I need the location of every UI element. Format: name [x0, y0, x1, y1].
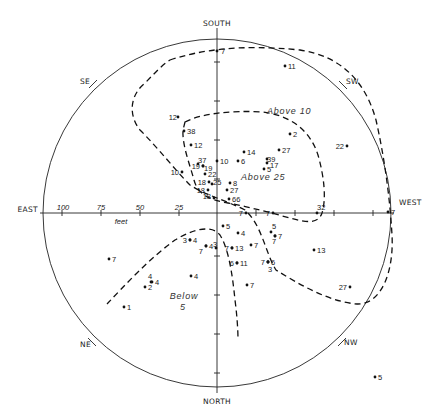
- data-point-marker: [263, 168, 266, 171]
- data-point-label: 3: [183, 236, 187, 245]
- data-point-label: 7: [254, 241, 258, 250]
- data-point-marker: [250, 244, 253, 247]
- data-point-label: 11: [288, 62, 296, 71]
- data-point-marker: [237, 232, 240, 235]
- data-point-label: 7: [239, 209, 243, 218]
- data-point-marker: [183, 130, 186, 133]
- contour-label-below-value: 5: [180, 302, 186, 312]
- scale-tick-75: 75: [97, 203, 106, 212]
- data-point-marker: [123, 306, 126, 309]
- data-point-label: 27: [339, 283, 347, 292]
- data-point-marker: [272, 212, 275, 215]
- data-point-marker: [205, 245, 208, 248]
- data-point-label: 5: [378, 373, 382, 382]
- data-point-marker: [144, 286, 147, 289]
- data-point-label: 2: [293, 130, 297, 139]
- data-point-marker: [213, 197, 216, 200]
- data-point-label: 10: [171, 168, 179, 177]
- data-point-label: 7: [250, 281, 254, 290]
- axis-ticks: [62, 62, 373, 373]
- direction-nw: NW: [344, 338, 358, 347]
- data-point-marker: [278, 149, 281, 152]
- data-point-label: 4: [193, 236, 197, 245]
- scale-tick-25: 25: [174, 203, 184, 212]
- data-point-marker: [222, 225, 225, 228]
- data-point-label: 13: [235, 244, 243, 253]
- data-point-label: 4: [194, 272, 198, 281]
- direction-east: EAST: [18, 205, 39, 214]
- data-point-marker: [246, 284, 249, 287]
- data-point-marker: [346, 145, 349, 148]
- data-point-marker: [266, 162, 269, 165]
- data-point-label: 7: [266, 209, 270, 218]
- polar-chart: SOUTH NORTH EAST WEST SE SW NE NW 100 75…: [0, 0, 437, 419]
- data-points: 7111238122221427371063917191910225182581…: [108, 47, 396, 382]
- data-point-marker: [190, 275, 193, 278]
- data-point-label: 1: [127, 303, 131, 312]
- data-point-label: 7: [221, 47, 225, 56]
- data-point-label: 19: [192, 162, 200, 171]
- data-point-label: 5: [226, 222, 230, 231]
- data-point-marker: [207, 189, 210, 192]
- data-point-marker: [349, 286, 352, 289]
- data-point-label: 38: [187, 127, 195, 136]
- data-point-label: 14: [247, 148, 255, 157]
- data-point-label: 2: [148, 283, 152, 292]
- data-point-marker: [226, 189, 229, 192]
- data-point-marker: [245, 212, 248, 215]
- data-point-marker: [190, 144, 193, 147]
- data-point-label: 5: [267, 165, 271, 174]
- data-point-label: 6: [230, 259, 234, 268]
- data-point-marker: [181, 171, 184, 174]
- data-point-marker: [267, 261, 270, 264]
- data-point-label: 7: [391, 208, 395, 217]
- data-point-label: 66: [232, 195, 240, 204]
- data-point-label: 7: [199, 247, 203, 256]
- data-point-marker: [108, 258, 111, 261]
- data-point-marker: [374, 376, 377, 379]
- data-point-label: 5: [272, 222, 276, 231]
- data-point-marker: [216, 50, 219, 53]
- data-point-label: 27: [282, 146, 290, 155]
- data-point-marker: [228, 198, 231, 201]
- data-point-marker: [237, 160, 240, 163]
- data-point-label: 32: [317, 203, 325, 212]
- data-point-marker: [231, 247, 234, 250]
- scale-tick-50: 50: [136, 203, 145, 212]
- data-point-label: 12: [194, 141, 202, 150]
- contour-below-5: [107, 229, 238, 340]
- data-point-label: 7: [278, 232, 282, 241]
- data-point-label: 12: [169, 113, 177, 122]
- scale-tick-100: 100: [57, 203, 70, 212]
- data-point-marker: [229, 182, 232, 185]
- data-point-label: 13: [317, 246, 325, 255]
- data-point-label: 11: [240, 259, 248, 268]
- data-point-label: 10: [220, 157, 228, 166]
- direction-ne: NE: [80, 340, 91, 349]
- direction-north: NORTH: [203, 397, 231, 406]
- data-point-marker: [204, 173, 207, 176]
- data-point-marker: [243, 151, 246, 154]
- data-point-marker: [313, 249, 316, 252]
- data-point-marker: [270, 231, 273, 234]
- data-point-label: 7: [112, 255, 116, 264]
- data-point-label: 7: [261, 258, 265, 267]
- scale-unit-label: feet: [115, 217, 128, 226]
- contour-label-above-25: Above 25: [240, 172, 286, 182]
- direction-south: SOUTH: [203, 19, 231, 28]
- data-point-label: 4: [155, 278, 159, 287]
- data-point-marker: [289, 133, 292, 136]
- data-point-marker: [208, 181, 211, 184]
- data-point-label: 18: [203, 192, 211, 201]
- data-point-label: 25: [213, 178, 221, 187]
- data-point-label: 3: [213, 240, 217, 249]
- data-point-marker: [316, 212, 319, 215]
- direction-se: SE: [80, 77, 90, 86]
- data-point-marker: [236, 262, 239, 265]
- data-point-label: 17: [270, 161, 278, 170]
- data-point-label: 27: [230, 186, 238, 195]
- data-point-label: 6: [241, 157, 245, 166]
- data-point-marker: [284, 65, 287, 68]
- data-point-label: 3: [268, 265, 272, 274]
- data-point-marker: [177, 116, 180, 119]
